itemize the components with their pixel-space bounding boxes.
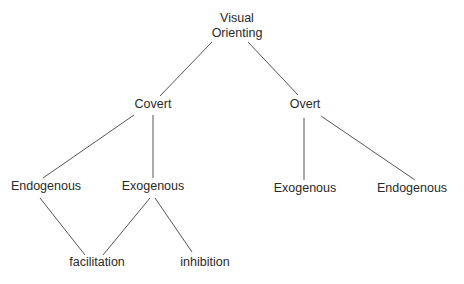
edge-covert-exogenous-to-inhibition [155,198,192,252]
labels-group: VisualOrientingCovertOvertEndogenousExog… [11,11,447,269]
node-label-line: Endogenous [11,179,81,193]
node-label-line: Exogenous [274,181,337,195]
node-overt: Overt [290,97,321,111]
node-covert: Covert [135,97,172,111]
node-label-line: inhibition [180,255,229,269]
node-overt-exogenous: Exogenous [274,181,337,195]
node-inhibition: inhibition [180,255,229,269]
edge-root-to-covert [160,42,212,96]
node-root: VisualOrienting [212,11,263,40]
node-label-line: Exogenous [122,179,185,193]
node-covert-exogenous: Exogenous [122,179,185,193]
edge-root-to-overt [248,42,298,95]
node-label-line: Endogenous [377,181,447,195]
edge-overt-to-overt-endogenous [321,116,415,180]
node-label-line: Covert [135,97,172,111]
node-covert-endogenous: Endogenous [11,179,81,193]
edge-covert-to-covert-endogenous [43,115,134,178]
node-label-line: facilitation [69,255,125,269]
edge-covert-exogenous-to-facilitation [103,198,150,255]
node-label-line: Visual [220,11,254,25]
node-facilitation: facilitation [69,255,125,269]
node-overt-endogenous: Endogenous [377,181,447,195]
node-label-line: Overt [290,97,321,111]
visual-orienting-tree-diagram: VisualOrientingCovertOvertEndogenousExog… [0,0,464,284]
edge-covert-endogenous-to-facilitation [40,198,85,255]
node-label-line: Orienting [212,26,263,40]
edges-group [40,42,415,255]
